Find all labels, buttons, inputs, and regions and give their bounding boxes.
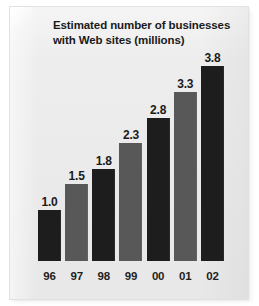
bar-slot: 3.3 — [174, 56, 197, 261]
screenshot-root: Estimated number of businesses with Web … — [0, 0, 259, 306]
bar-slot: 2.3 — [119, 56, 142, 261]
bar-slot: 3.8 — [201, 56, 224, 261]
bar-slot: 2.8 — [147, 56, 170, 261]
bar-slot: 1.0 — [38, 56, 61, 261]
bar-98 — [92, 169, 115, 261]
bar-96 — [38, 210, 61, 261]
x-axis-tick-label: 98 — [92, 270, 115, 282]
bar-value-label: 2.8 — [142, 103, 175, 117]
bar-slot: 1.8 — [92, 56, 115, 261]
bar-99 — [119, 143, 142, 261]
bar-chart-plot: 1.0 1.5 1.8 2.3 2.8 — [10, 7, 248, 299]
chart-card: Estimated number of businesses with Web … — [10, 7, 248, 299]
bar-value-label: 3.3 — [169, 77, 202, 91]
bar-group: 1.0 1.5 1.8 2.3 2.8 — [38, 56, 224, 261]
bar-value-label: 1.0 — [33, 195, 66, 209]
bar-value-label: 1.5 — [60, 169, 93, 183]
bar-00 — [147, 118, 170, 262]
bar-value-label: 3.8 — [196, 51, 229, 65]
bar-97 — [65, 184, 88, 261]
bar-02 — [201, 66, 224, 261]
x-axis-tick-label: 01 — [174, 270, 197, 282]
bar-slot: 1.5 — [65, 56, 88, 261]
bar-value-label: 1.8 — [87, 154, 120, 168]
x-axis-tick-label: 96 — [38, 270, 61, 282]
x-axis-tick-label: 99 — [119, 270, 142, 282]
x-axis-labels: 96 97 98 99 00 01 02 — [38, 270, 224, 282]
bar-01 — [174, 92, 197, 261]
bar-value-label: 2.3 — [114, 128, 147, 142]
x-axis-tick-label: 00 — [147, 270, 170, 282]
x-axis-tick-label: 97 — [65, 270, 88, 282]
x-axis-tick-label: 02 — [201, 270, 224, 282]
